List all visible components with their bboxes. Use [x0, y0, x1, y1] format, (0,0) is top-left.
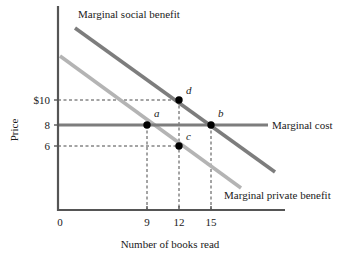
point-marker-c	[175, 142, 182, 149]
x-axis-title: Number of books read	[121, 238, 220, 250]
point-marker-b	[207, 121, 214, 128]
point-label-a: a	[154, 107, 160, 119]
point-label-d: d	[186, 84, 192, 96]
point-marker-d	[175, 96, 182, 103]
point-label-c: c	[186, 130, 191, 142]
x-tick-label-15: 15	[206, 216, 218, 228]
marginal-social-benefit-label: Marginal social benefit	[78, 8, 180, 20]
point-label-b: b	[218, 107, 224, 119]
y-tick-label-6: 6	[45, 140, 51, 152]
y-tick-label-10: $10	[34, 94, 51, 106]
y-axis-title: Price	[8, 119, 20, 142]
point-marker-a	[143, 121, 150, 128]
economics-externality-chart: a b c d $10 8 6 0 9 12 15 Price Number o…	[0, 0, 345, 257]
marginal-private-benefit-label: Marginal private benefit	[224, 189, 331, 201]
x-tick-label-12: 12	[174, 216, 185, 228]
x-tick-label-9: 9	[144, 216, 150, 228]
y-tick-label-8: 8	[45, 119, 51, 131]
marginal-cost-label: Marginal cost	[272, 119, 333, 131]
x-tick-label-0: 0	[57, 216, 63, 228]
